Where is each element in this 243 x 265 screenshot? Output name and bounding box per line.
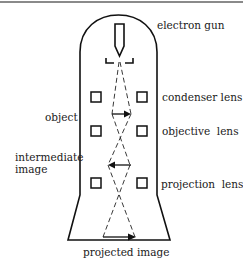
label-electron-gun: electron gun — [157, 19, 225, 31]
label-intermediate-image-line2: image — [15, 163, 48, 175]
label-object: object — [45, 111, 78, 123]
tem-diagram: electron gun condenser lens object objec… — [0, 0, 243, 265]
microscope-column-outline — [68, 15, 170, 240]
label-projection-lens: projection lens — [161, 178, 243, 190]
label-intermediate-image-line1: intermediate — [15, 151, 84, 163]
label-objective-lens: objective lens — [162, 125, 239, 137]
projection-lens-left — [91, 178, 101, 188]
intermediate-image-arrow-icon — [108, 162, 131, 169]
electron-gun-icon — [106, 24, 133, 63]
top-rule — [0, 1, 243, 3]
objective-lens-left — [91, 126, 101, 136]
electron-beam-rays — [103, 62, 135, 237]
label-condenser-lens: condenser lens — [162, 91, 242, 103]
object-arrow-icon — [112, 111, 131, 118]
label-projected-image: projected image — [83, 246, 169, 258]
objective-lens-right — [137, 126, 147, 136]
condenser-lens-left — [91, 92, 101, 102]
projection-lens-right — [137, 178, 147, 188]
condenser-lens-right — [137, 92, 147, 102]
